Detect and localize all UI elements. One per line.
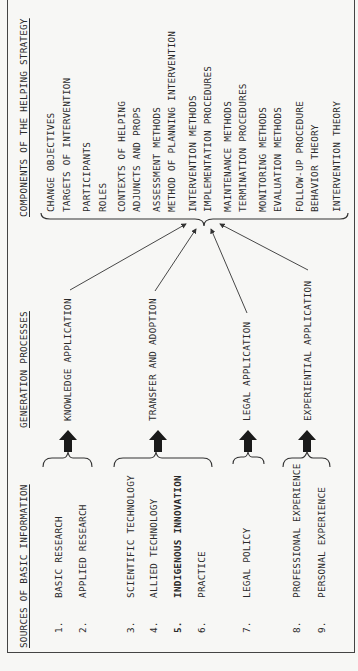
connector-legal [211,229,247,313]
sources-brace-2 [114,452,212,467]
diagram-graphics [0,0,358,671]
sources-brace-1 [43,452,92,467]
sources-brace-3 [233,452,264,464]
components-brace [41,213,348,226]
sources-brace-4 [283,452,330,467]
connector-experiential [220,224,308,270]
block-arrow-icons [59,430,316,452]
connector-knowledge [70,224,186,290]
